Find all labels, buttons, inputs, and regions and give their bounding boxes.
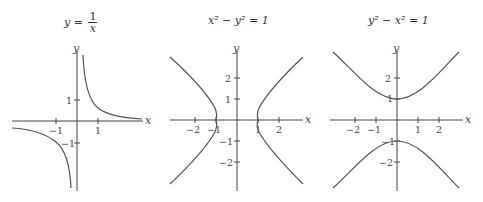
x-tick-label: 1	[95, 125, 101, 136]
y-tick-label: −1	[61, 138, 75, 149]
plot-reciprocal: −1 1 1 −1 x y	[0, 0, 160, 202]
curve-left-branch	[12, 128, 71, 188]
plot-hyperbola-x: −2 −1 1 2 2 1 −1 −2 x y	[160, 0, 320, 202]
plot-hyperbola-y: −2 −1 1 2 2 1 −1 −2 x y	[320, 0, 483, 202]
x-tick-label: 2	[276, 124, 282, 135]
y-tick-label: −2	[219, 157, 233, 168]
curve-right-branch	[83, 55, 142, 119]
y-axis-label: y	[392, 42, 400, 55]
x-tick-label: −1	[367, 124, 381, 135]
y-tick-label: −2	[379, 157, 393, 168]
x-axis-label: x	[305, 113, 312, 126]
panel-hyperbola-y: y² − x² = 1 −2 −1 1 2 2 1 −1 −2 x y	[320, 0, 483, 202]
x-tick-label: −1	[49, 125, 63, 136]
x-tick-label: −2	[346, 124, 360, 135]
x-tick-label: 2	[436, 124, 442, 135]
x-tick-label: −2	[186, 124, 200, 135]
panel-hyperbola-x: x² − y² = 1 −2 −1 1 2 2 1 −1 −2 x y	[160, 0, 320, 202]
y-tick-label: 2	[385, 73, 391, 84]
panel-reciprocal: y = 1 x −1 1 1 −1 x y	[0, 0, 160, 202]
y-tick-label: 1	[225, 94, 231, 105]
y-tick-label: −1	[219, 136, 233, 147]
y-tick-label: 2	[225, 73, 231, 84]
y-tick-label: 1	[66, 95, 72, 106]
x-axis-label: x	[145, 114, 152, 127]
curve-lower-branch	[333, 141, 459, 188]
x-axis-label: x	[465, 113, 472, 126]
y-axis-label: y	[232, 42, 240, 55]
x-tick-label: 1	[415, 124, 421, 135]
curve-upper-branch	[333, 52, 459, 99]
y-axis-label: y	[72, 42, 80, 55]
